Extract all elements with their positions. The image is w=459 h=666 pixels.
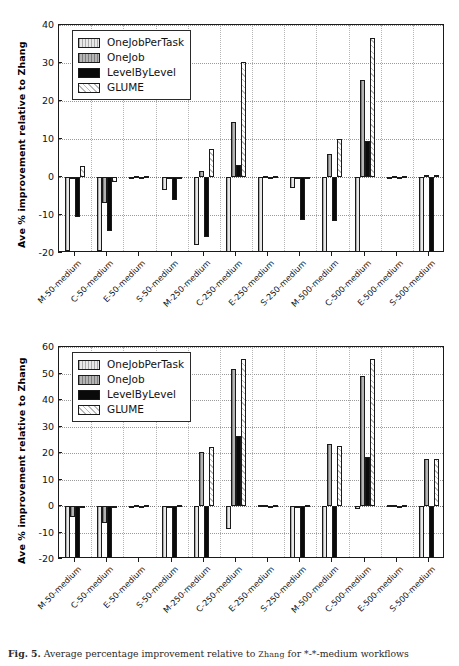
gridline-y-20 xyxy=(59,101,443,102)
bar-glume-C-50-medium xyxy=(112,506,117,508)
bar-levelbylevel-S-250-medium xyxy=(300,506,305,558)
legend-swatch-glume-icon xyxy=(78,405,100,415)
x-axis-tick-mark xyxy=(299,252,300,256)
bar-levelbylevel-S-500-medium xyxy=(429,506,434,558)
y-axis-tick-label: 10 xyxy=(32,133,54,144)
x-axis-tick-mark xyxy=(428,252,429,256)
x-axis-tick-mark xyxy=(364,252,365,256)
y-axis-tick-label: 10 xyxy=(32,473,54,484)
bar-glume-E-50-medium xyxy=(144,505,149,507)
x-axis-tick-mark xyxy=(74,558,75,562)
bar-onejobpertask-C-250-medium xyxy=(226,177,231,252)
gridline-y-10 xyxy=(59,139,443,140)
bar-levelbylevel-M-50-medium xyxy=(75,506,80,558)
bar-glume-C-250-medium xyxy=(241,359,246,506)
bar-levelbylevel-S-50-medium xyxy=(172,177,177,200)
bar-onejob-M-500-medium xyxy=(327,154,332,177)
caption-smallcaps-zhang: Zhang xyxy=(258,650,284,659)
caption-label: Fig. 5. xyxy=(8,648,41,659)
gridline-y-40 xyxy=(59,25,443,26)
y-axis-tick-mark xyxy=(58,176,62,177)
gridline-x xyxy=(316,347,317,557)
x-axis-tick-mark xyxy=(171,558,172,562)
y-axis-title: Ave % improvement relative to Zhang xyxy=(16,41,27,248)
bar-glume-E-250-medium xyxy=(273,505,278,507)
legend-label: GLUME xyxy=(107,82,144,93)
bar-glume-S-50-medium xyxy=(177,505,182,507)
bar-onejobpertask-M-250-medium xyxy=(194,177,199,245)
x-axis-tick-mark xyxy=(299,558,300,562)
x-axis-tick-mark xyxy=(331,252,332,256)
bar-glume-M-500-medium xyxy=(337,139,342,177)
legend-label: OneJob xyxy=(107,52,145,63)
x-axis-tick-mark xyxy=(235,558,236,562)
y-axis-tick-mark xyxy=(58,479,62,480)
y-axis-tick-mark xyxy=(58,100,62,101)
bar-levelbylevel-M-250-medium xyxy=(204,177,209,237)
bar-onejobpertask-S-500-medium xyxy=(419,506,424,558)
bar-onejobpertask-S-250-medium xyxy=(290,506,295,558)
bar-levelbylevel-C-50-medium xyxy=(107,177,112,231)
legend-label: LevelByLevel xyxy=(107,389,176,400)
y-axis-tick-mark xyxy=(58,62,62,63)
bar-glume-E-500-medium xyxy=(402,176,407,178)
x-axis-tick-mark xyxy=(74,252,75,256)
bar-levelbylevel-M-500-medium xyxy=(332,506,337,558)
gridline-x xyxy=(220,347,221,557)
y-axis-tick-label: -20 xyxy=(32,553,54,564)
legend-swatch-onejob-icon xyxy=(78,53,100,63)
bar-glume-S-500-medium xyxy=(434,175,439,177)
gridline-y--10 xyxy=(59,215,443,216)
legend-swatch-glume-icon xyxy=(78,83,100,93)
y-axis-tick-label: -20 xyxy=(32,247,54,258)
bar-onejobpertask-E-250-medium xyxy=(258,177,263,252)
chart-bottom: -20-100102030405060Ave % improvement rel… xyxy=(0,332,459,638)
bar-levelbylevel-M-250-medium xyxy=(204,506,209,558)
x-axis-tick-mark xyxy=(267,558,268,562)
gridline-x xyxy=(284,347,285,557)
y-axis-tick-mark xyxy=(58,346,62,347)
y-axis-tick-label: 60 xyxy=(32,341,54,352)
legend-label: OneJobPerTask xyxy=(107,37,184,48)
legend-item-glume: GLUME xyxy=(78,402,184,417)
bar-onejobpertask-C-250-medium xyxy=(226,506,231,529)
bar-levelbylevel-S-250-medium xyxy=(300,177,305,220)
gridline-x xyxy=(349,347,350,557)
x-axis-tick-mark xyxy=(106,252,107,256)
bar-glume-M-500-medium xyxy=(337,446,342,506)
legend-bottom: OneJobPerTaskOneJobLevelByLevelGLUME xyxy=(72,352,191,422)
caption-text-after: for *-*-medium workflows xyxy=(285,648,409,659)
y-axis-tick-mark xyxy=(58,452,62,453)
legend-swatch-onejobpertask-icon xyxy=(78,360,100,370)
legend-swatch-levelbylevel-icon xyxy=(78,390,100,400)
y-axis-tick-label: 20 xyxy=(32,95,54,106)
bar-glume-S-500-medium xyxy=(434,459,439,506)
gridline-y-30 xyxy=(59,427,443,428)
y-axis-tick-label: 30 xyxy=(32,57,54,68)
bar-glume-M-50-medium xyxy=(80,166,85,177)
gridline-x xyxy=(381,347,382,557)
gridline-x xyxy=(349,25,350,251)
gridline-y-60 xyxy=(59,347,443,348)
x-axis-tick-mark xyxy=(171,252,172,256)
x-axis-tick-mark xyxy=(235,252,236,256)
y-axis-tick-mark xyxy=(58,24,62,25)
y-axis-tick-label: 30 xyxy=(32,420,54,431)
legend-top: OneJobPerTaskOneJobLevelByLevelGLUME xyxy=(72,30,191,100)
gridline-x xyxy=(252,347,253,557)
y-axis-tick-mark xyxy=(58,252,62,253)
bar-glume-C-50-medium xyxy=(112,177,117,182)
legend-label: GLUME xyxy=(107,404,144,415)
x-axis-tick-mark xyxy=(396,252,397,256)
x-axis-tick-mark xyxy=(331,558,332,562)
legend-item-levelbylevel: LevelByLevel xyxy=(78,387,184,402)
y-axis-tick-mark xyxy=(58,138,62,139)
bar-glume-M-250-medium xyxy=(209,149,214,177)
y-axis-tick-label: 0 xyxy=(32,171,54,182)
bar-onejobpertask-S-500-medium xyxy=(419,177,424,252)
x-axis-tick-mark xyxy=(138,558,139,562)
y-axis-tick-mark xyxy=(58,373,62,374)
bar-onejobpertask-M-250-medium xyxy=(194,506,199,558)
legend-swatch-levelbylevel-icon xyxy=(78,68,100,78)
gridline-x xyxy=(220,25,221,251)
